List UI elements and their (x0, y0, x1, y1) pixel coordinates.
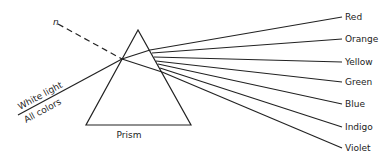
blue-label: Blue (345, 99, 365, 109)
red-ray (150, 17, 342, 50)
indigo-label: Indigo (345, 122, 373, 132)
normal-line (58, 24, 122, 59)
blue-ray (158, 64, 342, 104)
yellow-label: Yellow (344, 57, 373, 67)
red-label: Red (345, 12, 362, 22)
prism-diagram: RedOrangeYellowGreenBlueIndigoViolet Pri… (0, 0, 389, 157)
orange-ray (152, 39, 342, 53)
green-label: Green (345, 77, 372, 87)
orange-label: Orange (345, 34, 379, 44)
green-ray (156, 61, 342, 82)
dispersed-color-rays: RedOrangeYellowGreenBlueIndigoViolet (150, 12, 379, 153)
violet-label: Violet (345, 143, 371, 153)
violet-ray (162, 72, 342, 148)
normal-dashed-line (58, 24, 122, 59)
yellow-ray (154, 57, 342, 62)
normal-label: n (53, 17, 59, 27)
internal-ray-bottom (122, 59, 162, 72)
prism-label: Prism (117, 130, 142, 140)
